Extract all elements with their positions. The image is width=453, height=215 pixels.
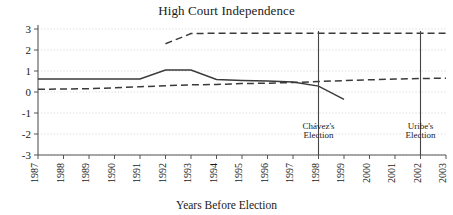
x-tick-label: 1997 [284, 163, 295, 183]
x-tick-label: 1989 [80, 163, 91, 183]
series-line [38, 70, 344, 99]
y-tick-label: 0 [26, 86, 32, 98]
x-tick-label: 1998 [310, 163, 321, 183]
x-tick-label: 1992 [157, 163, 168, 183]
series-line [166, 33, 447, 44]
x-axis-title: Years Before Election [0, 199, 453, 211]
y-tick-label: 2 [26, 44, 32, 56]
y-tick-label: 1 [26, 65, 32, 77]
gridlines [38, 29, 446, 155]
x-tick-label: 1988 [55, 163, 66, 183]
y-tick-label: -2 [22, 128, 31, 140]
annotations: Chávez'sElectionUribe'sElection [302, 31, 436, 155]
x-tick-label: 1993 [182, 163, 193, 183]
chavez-election-label-line2: Election [304, 130, 334, 140]
x-tick-label: 2001 [386, 163, 397, 183]
y-tick-label: -3 [22, 149, 32, 161]
data-series [38, 33, 446, 99]
y-tick-label: -1 [22, 107, 31, 119]
x-tick-label: 1999 [335, 163, 346, 183]
uribe-election-label-line2: Election [406, 130, 436, 140]
x-tick-label: 1995 [233, 163, 244, 183]
x-tick-label: 2002 [412, 163, 423, 183]
x-tick-label: 1987 [29, 163, 40, 183]
y-axis-ticks: 3210-1-2-3 [22, 23, 38, 161]
x-tick-label: 2003 [437, 163, 448, 183]
x-axis-ticks: 1987198819891990199119921993199419951996… [29, 155, 448, 183]
x-tick-label: 1991 [131, 163, 142, 183]
axis-lines [38, 25, 446, 155]
x-tick-label: 1996 [259, 163, 270, 183]
y-tick-label: 3 [26, 23, 32, 35]
x-tick-label: 1990 [106, 163, 117, 183]
plot-area: 3210-1-2-3 19871988198919901991199219931… [0, 0, 453, 215]
x-tick-label: 2000 [361, 163, 372, 183]
chart-container: High Court Independence 3210-1-2-3 19871… [0, 0, 453, 215]
x-tick-label: 1994 [208, 163, 219, 183]
